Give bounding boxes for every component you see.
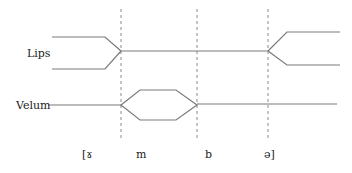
lips-upper-line-left	[52, 37, 121, 51]
segment-label-4: ə]	[264, 148, 275, 161]
lips-lower-line-left	[52, 51, 121, 69]
velum-opening-hexagon	[121, 90, 197, 120]
tier-label-velum: Velum	[15, 99, 51, 112]
tier-label-lips: Lips	[27, 47, 51, 60]
segment-label-1: [ɤ	[82, 148, 93, 161]
lips-lower-line-right	[268, 51, 340, 65]
lips-upper-line-right	[268, 32, 340, 51]
lips-tier	[52, 32, 340, 69]
segment-label-3: b	[205, 148, 212, 161]
segment-label-2: m	[136, 148, 147, 161]
gestural-score-diagram: Lips Velum [ɤ m b ə]	[0, 0, 352, 173]
velum-tier	[48, 90, 337, 120]
